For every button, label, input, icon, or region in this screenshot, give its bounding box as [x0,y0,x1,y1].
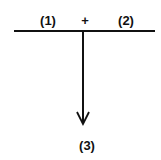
label-plus-operator: + [81,14,89,27]
label-input-1: (1) [40,14,56,27]
label-input-2: (2) [118,14,134,27]
label-output-3: (3) [79,139,95,152]
reaction-diagram: (1) + (2) (3) [0,0,161,160]
